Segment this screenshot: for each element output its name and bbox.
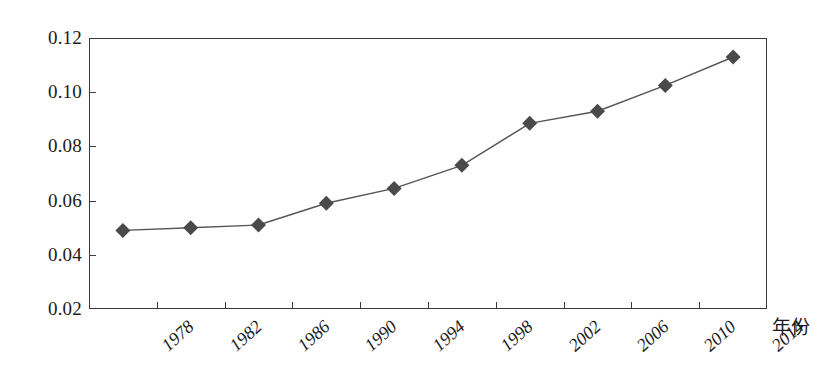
y-tick-mark xyxy=(89,146,96,147)
x-tick-label: 2006 xyxy=(633,317,672,354)
x-tick-mark xyxy=(428,302,429,309)
y-tick-label: 0.04 xyxy=(24,245,82,264)
x-tick-label: 1998 xyxy=(497,317,536,354)
x-tick-mark xyxy=(360,302,361,309)
x-axis-title: 年份 xyxy=(772,318,810,337)
x-tick-mark xyxy=(699,302,700,309)
y-tick-label: 0.08 xyxy=(24,136,82,155)
x-tick-mark xyxy=(564,302,565,309)
x-tick-label: 2010 xyxy=(701,317,740,354)
y-tick-mark xyxy=(89,255,96,256)
line-chart: 0.120.100.080.060.040.02 197819821986199… xyxy=(0,0,839,379)
y-tick-label: 0.06 xyxy=(24,191,82,210)
x-tick-mark xyxy=(496,302,497,309)
x-tick-label: 1994 xyxy=(429,317,468,354)
x-tick-mark xyxy=(157,302,158,309)
y-tick-mark xyxy=(89,201,96,202)
plot-area xyxy=(89,38,767,309)
x-tick-label: 1990 xyxy=(362,317,401,354)
x-tick-label: 2002 xyxy=(565,317,604,354)
y-tick-label: 0.10 xyxy=(24,82,82,101)
x-tick-mark xyxy=(292,302,293,309)
y-tick-label: 0.12 xyxy=(24,28,82,47)
y-tick-mark xyxy=(89,92,96,93)
x-tick-label: 1978 xyxy=(158,317,197,354)
y-tick-label: 0.02 xyxy=(24,299,82,318)
x-tick-label: 1982 xyxy=(226,317,265,354)
y-axis: 0.120.100.080.060.040.02 xyxy=(20,0,82,379)
x-tick-mark xyxy=(631,302,632,309)
x-tick-label: 1986 xyxy=(294,317,333,354)
x-tick-mark xyxy=(225,302,226,309)
